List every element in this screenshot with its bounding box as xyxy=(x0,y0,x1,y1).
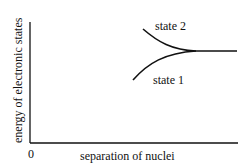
state-2-label: state 2 xyxy=(155,20,186,32)
diagram-canvas xyxy=(0,0,250,167)
state-1-label: state 1 xyxy=(153,74,184,86)
x-axis-label: separation of nuclei xyxy=(80,150,175,162)
origin-label: 0 xyxy=(28,148,34,160)
y-axis-label: energy of electronic states xyxy=(12,18,24,143)
